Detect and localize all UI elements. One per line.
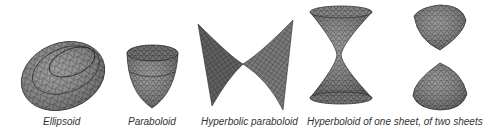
quadric-surfaces-figure	[0, 0, 488, 132]
ellipsoid-surface	[11, 29, 115, 122]
caption-ellipsoid: Ellipsoid	[43, 116, 80, 128]
hyperboloid-one-sheet-surface	[310, 6, 372, 104]
caption-paraboloid: Paraboloid	[128, 116, 176, 128]
caption-hyperboloids: Hyperboloid of one sheet, of two sheets	[307, 116, 483, 128]
caption-hyperbolic-paraboloid: Hyperbolic paraboloid	[201, 116, 298, 128]
hyperbolic-paraboloid-surface	[198, 20, 293, 110]
hyperboloid-two-sheets-surface	[413, 5, 467, 110]
paraboloid-surface	[127, 45, 178, 108]
